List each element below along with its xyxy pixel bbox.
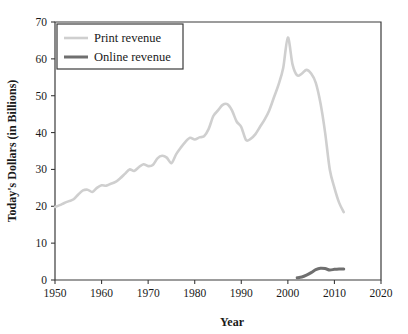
x-tick-label: 1950 [44,287,67,299]
y-axis: 010203040506070 [36,16,56,286]
y-tick-label: 70 [36,16,48,28]
legend-label-print: Print revenue [94,31,161,45]
y-tick-label: 40 [36,127,48,139]
x-tick-label: 1990 [230,287,253,299]
chart-canvas: 010203040506070 195019601970198019902000… [0,0,408,334]
x-tick-label: 1970 [137,287,160,299]
y-axis-title: Today's Dollars (in Billions) [5,80,19,223]
y-tick-label: 0 [41,274,47,286]
x-axis-title: Year [220,315,245,329]
y-tick-label: 20 [36,200,48,212]
y-tick-label: 50 [36,90,48,102]
series-line-online-revenue [297,268,344,278]
y-tick-label: 10 [36,237,48,249]
y-tick-label: 60 [36,53,48,65]
x-tick-label: 2000 [276,287,299,299]
x-tick-label: 1960 [90,287,113,299]
x-axis: 19501960197019801990200020102020 [44,280,393,299]
x-tick-label: 2010 [323,287,346,299]
series-layer [55,37,344,277]
revenue-line-chart: 010203040506070 195019601970198019902000… [0,0,408,334]
x-tick-label: 2020 [370,287,393,299]
legend: Print revenue Online revenue [57,24,183,69]
x-tick-label: 1980 [183,287,206,299]
legend-label-online: Online revenue [94,50,171,64]
y-tick-label: 30 [36,163,48,175]
